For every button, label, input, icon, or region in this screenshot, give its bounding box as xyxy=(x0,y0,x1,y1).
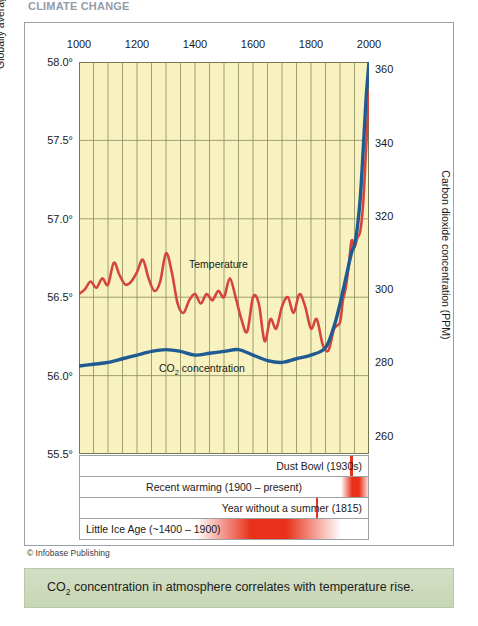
y-axis-left-title: Globally averaged surface temperature (°… xyxy=(0,0,6,118)
y-axis-right-title: Carbon dioxide concentration (PPM) xyxy=(440,130,452,380)
y-tick-label-left: 56.5° xyxy=(47,291,73,303)
plot-area: 100012001400160018002000 55.5°56.0°56.5°… xyxy=(79,62,369,454)
x-tick-label: 1800 xyxy=(299,38,323,50)
y-tick-label-left: 58.0° xyxy=(47,56,73,68)
annotation-bar: Recent warming (1900 – present) xyxy=(79,476,369,498)
y-tick-label-left: 57.5° xyxy=(47,134,73,146)
y-tick-label-right: 300 xyxy=(375,283,393,295)
publisher-credit: © Infobase Publishing xyxy=(27,548,110,558)
figure-caption: CO2 concentration in atmosphere correlat… xyxy=(24,568,454,608)
y-tick-label-left: 56.0° xyxy=(47,370,73,382)
caption-text: CO2 concentration in atmosphere correlat… xyxy=(47,580,414,597)
y-tick-label-right: 320 xyxy=(375,210,393,222)
annotation-bars: Dust Bowl (1930s)Recent warming (1900 – … xyxy=(79,456,369,540)
x-tick-label: 1000 xyxy=(67,38,91,50)
x-tick-label: 1200 xyxy=(125,38,149,50)
annotation-bar-label: Year without a summer (1815) xyxy=(222,498,362,518)
y-tick-label-right: 340 xyxy=(375,137,393,149)
y-axis-right-ticks: 260280300320340360 xyxy=(375,62,421,454)
annotation-bar: Year without a summer (1815) xyxy=(79,497,369,519)
y-tick-label-left: 57.0° xyxy=(47,213,73,225)
x-tick-label: 1400 xyxy=(183,38,207,50)
annotation-bar-label: Dust Bowl (1930s) xyxy=(276,456,362,476)
y-tick-label-right: 260 xyxy=(375,430,393,442)
series-label-co2: CO2 concentration xyxy=(159,362,245,377)
y-tick-label-left: 55.5° xyxy=(47,448,73,460)
annotation-bar: Little Ice Age (~1400 – 1900) xyxy=(79,518,369,540)
x-tick-label: 2000 xyxy=(357,38,381,50)
x-axis-ticks: 100012001400160018002000 xyxy=(79,38,369,58)
annotation-bar: Dust Bowl (1930s) xyxy=(79,455,369,477)
y-tick-label-right: 280 xyxy=(375,356,393,368)
y-axis-left-ticks: 55.5°56.0°56.5°57.0°57.5°58.0° xyxy=(27,62,73,454)
series-label-temperature: Temperature xyxy=(189,258,248,270)
annotation-bar-label: Recent warming (1900 – present) xyxy=(80,477,368,497)
co2-label-text: CO2 concentration xyxy=(159,362,245,374)
annotation-bar-label: Little Ice Age (~1400 – 1900) xyxy=(86,519,221,539)
x-tick-label: 1600 xyxy=(241,38,265,50)
page-top-title: CLIMATE CHANGE xyxy=(28,0,248,12)
y-tick-label-right: 360 xyxy=(375,63,393,75)
